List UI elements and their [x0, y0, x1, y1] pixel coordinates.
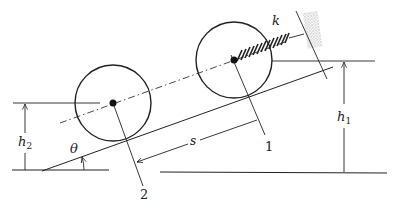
- center-line: [60, 42, 285, 123]
- position-1-label: 1: [265, 139, 273, 154]
- angle-arc: [82, 157, 84, 170]
- displacement-line: [200, 120, 257, 140]
- h1-label: h1: [337, 109, 351, 126]
- ground-line-right: [160, 172, 387, 173]
- angle-label: θ: [70, 141, 78, 156]
- spring: [237, 33, 289, 61]
- position-2-label: 2: [140, 187, 148, 202]
- spring-constant-label: k: [272, 13, 280, 28]
- wheel-incline-diagram: θ 2 k 1 s h1 h2: [0, 0, 398, 210]
- displacement-arrow: [137, 144, 188, 162]
- spring-connector: [289, 34, 304, 38]
- displacement-label: s: [190, 134, 196, 148]
- incline-surface: [42, 67, 333, 171]
- wall-hatch: [303, 11, 323, 49]
- h2-label: h2: [18, 134, 32, 151]
- diagram-canvas: θ 2 k 1 s h1 h2: [0, 0, 398, 210]
